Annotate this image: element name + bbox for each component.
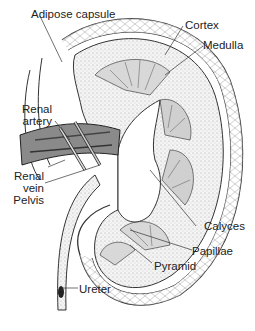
label-renal-artery-line2: artery (6, 115, 52, 127)
label-medulla: Medulla (203, 39, 243, 51)
label-cortex: Cortex (185, 19, 219, 31)
label-renal-artery-line1: Renal (6, 103, 52, 115)
label-papillae: Papillae (192, 245, 233, 257)
label-adipose-capsule: Adipose capsule (31, 8, 115, 20)
label-pyramid: Pyramid (154, 260, 196, 272)
renal-vessels (20, 122, 120, 170)
label-pelvis: Pelvis (0, 194, 44, 206)
label-renal-vein-line2: vein (0, 182, 44, 194)
label-ureter: Ureter (79, 283, 111, 295)
label-renal-vein-line1: Renal (0, 170, 44, 182)
kidney-diagram: Adipose capsule Cortex Medulla Renal art… (0, 0, 255, 331)
label-calyces: Calyces (204, 220, 245, 232)
